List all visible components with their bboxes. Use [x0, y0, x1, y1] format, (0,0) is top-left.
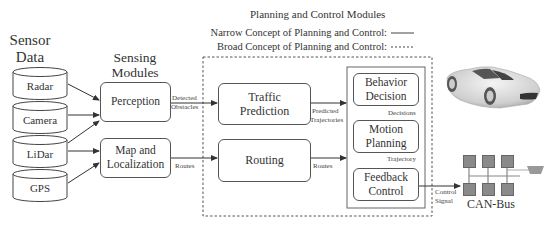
sensor-lidar-label: LiDar: [12, 148, 68, 160]
legend-broad-label: Broad Concept of Planning and Control:: [207, 41, 387, 52]
traffic-label-line2: Prediction: [240, 104, 289, 118]
behavior-label-line1: Behavior: [365, 76, 407, 90]
edge-trajectory: Trajectory: [387, 156, 416, 164]
can-node-5: [482, 183, 495, 196]
feedback-label-line1: Feedback: [364, 171, 408, 185]
perception-label: Perception: [111, 95, 160, 109]
can-node-6: [501, 183, 514, 196]
can-node-4: [463, 183, 476, 196]
traffic-prediction-module: Traffic Prediction: [218, 83, 311, 125]
edge-detected-line1: Detected: [172, 95, 197, 103]
perception-module: Perception: [100, 82, 171, 122]
motion-planning-module: Motion Planning: [353, 120, 419, 153]
sensor-camera: Camera: [12, 101, 68, 135]
sensor-data-title-line1: Sensor: [5, 33, 55, 49]
edge-routes-2: Routes: [313, 163, 332, 171]
legend-narrow-label: Narrow Concept of Planning and Control:: [207, 27, 387, 38]
diagram-title: Planning and Control Modules: [250, 9, 385, 21]
sensor-radar: Radar: [12, 67, 68, 101]
can-node-2: [482, 155, 495, 168]
can-bus-label: CAN-Bus: [467, 198, 515, 211]
motion-label-line1: Motion: [369, 123, 403, 137]
can-node-3: [501, 155, 514, 168]
sensing-modules-title-line1: Sensing: [105, 51, 165, 65]
routing-label: Routing: [245, 153, 284, 167]
behavior-label-line2: Decision: [366, 90, 407, 104]
can-node-1: [463, 155, 476, 168]
edge-predicted-line1: Predicted: [312, 108, 338, 116]
motion-label-line2: Planning: [366, 137, 407, 151]
sensing-modules-title-line2: Modules: [105, 66, 165, 80]
edge-control-line1: Control: [435, 189, 456, 197]
edge-routes-1: Routes: [175, 163, 194, 171]
map-label-line2: Localization: [107, 158, 164, 172]
sensor-gps-label: GPS: [12, 182, 68, 194]
sensor-radar-label: Radar: [12, 80, 68, 92]
feedback-label-line2: Control: [368, 185, 403, 199]
can-bus-wiring: [469, 161, 530, 189]
behavior-decision-module: Behavior Decision: [353, 73, 419, 106]
feedback-control-module: Feedback Control: [353, 168, 419, 201]
sensor-gps: GPS: [12, 169, 68, 203]
sensor-data-title-line2: Data: [5, 50, 55, 66]
edge-predicted-line2: Trajectories: [310, 117, 343, 125]
map-label-line1: Map and: [115, 144, 156, 158]
map-localization-module: Map and Localization: [100, 138, 171, 178]
edge-detected-line2: Obstacles: [171, 104, 198, 112]
edge-decisions: Decisions: [388, 110, 416, 118]
sensor-camera-label: Camera: [12, 114, 68, 126]
can-bus-connector: [527, 166, 544, 174]
sensor-lidar: LiDar: [12, 135, 68, 169]
traffic-label-line1: Traffic: [248, 90, 281, 104]
routing-module: Routing: [218, 139, 311, 182]
edge-control-line2: Signal: [435, 198, 453, 206]
